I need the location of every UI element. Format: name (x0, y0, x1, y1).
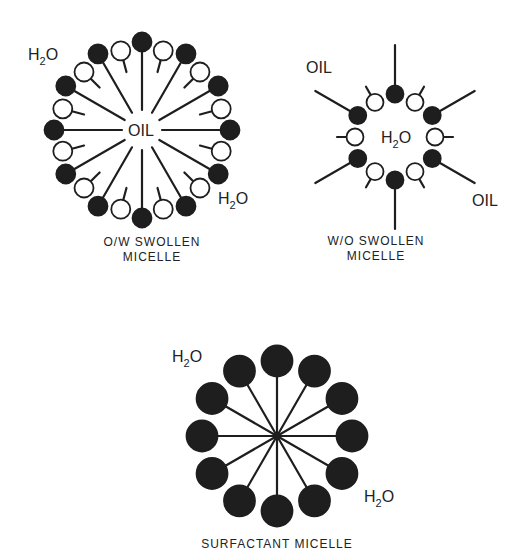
wo-caption-line1: W/O SWOLLEN (327, 234, 424, 248)
filled-head-icon (299, 356, 330, 387)
wo-core-label: H2O (381, 129, 411, 150)
sf-water-label-top: H2O (172, 348, 202, 369)
filled-head-icon (89, 44, 108, 63)
filled-head-icon (299, 485, 330, 516)
open-head-icon (347, 129, 364, 146)
filled-head-icon (45, 121, 64, 140)
sf-caption: SURFACTANT MICELLE (201, 537, 353, 551)
open-head-icon (154, 41, 173, 60)
filled-head-icon (197, 458, 228, 489)
filled-head-icon (209, 77, 228, 96)
filled-head-icon (221, 121, 240, 140)
open-head-icon (212, 142, 231, 161)
filled-head-icon (89, 197, 108, 216)
filled-head-icon (424, 107, 441, 124)
open-head-icon (212, 99, 231, 118)
open-head-icon (154, 200, 173, 219)
filled-head-icon (56, 77, 75, 96)
wo-oil-label-bottom: OIL (472, 192, 498, 209)
filled-head-icon (133, 209, 152, 228)
open-head-icon (367, 94, 384, 111)
open-head-icon (407, 94, 424, 111)
filled-head-icon (387, 86, 404, 103)
open-head-icon (190, 178, 209, 197)
filled-head-icon (197, 383, 228, 414)
ow-water-label-top: H2O (28, 46, 58, 67)
filled-head-icon (262, 496, 293, 527)
open-head-icon (367, 163, 384, 180)
sf-water-label-bottom: H2O (364, 488, 394, 509)
ow-water-label-bottom: H2O (218, 190, 248, 211)
filled-head-icon (177, 44, 196, 63)
center-node-icon (274, 433, 281, 440)
filled-head-icon (424, 150, 441, 167)
filled-head-icon (337, 421, 368, 452)
filled-head-icon (177, 197, 196, 216)
ow-caption-line2: MICELLE (123, 250, 181, 264)
open-head-icon (111, 41, 130, 60)
filled-head-icon (56, 165, 75, 184)
wo-swollen-micelle (315, 45, 474, 229)
filled-head-icon (209, 165, 228, 184)
wo-oil-label-top: OIL (306, 59, 332, 76)
open-head-icon (190, 63, 209, 82)
open-head-icon (53, 99, 72, 118)
ow-caption-line1: O/W SWOLLEN (103, 235, 200, 249)
filled-head-icon (133, 33, 152, 52)
filled-head-icon (224, 485, 255, 516)
filled-head-icon (262, 346, 293, 377)
open-head-icon (111, 200, 130, 219)
filled-head-icon (224, 356, 255, 387)
open-head-icon (75, 63, 94, 82)
filled-head-icon (349, 150, 366, 167)
surfactant-micelle (187, 346, 368, 527)
filled-head-icon (326, 458, 357, 489)
micelle-diagram: OIL H2O H2O O/W SWOLLEN MICELLE H2O OIL … (0, 0, 518, 553)
open-head-icon (407, 163, 424, 180)
wo-caption-line2: MICELLE (347, 249, 405, 263)
open-head-icon (75, 178, 94, 197)
filled-head-icon (326, 383, 357, 414)
open-head-icon (53, 142, 72, 161)
open-head-icon (427, 129, 444, 146)
filled-head-icon (387, 172, 404, 189)
ow-core-label: OIL (128, 122, 154, 139)
filled-head-icon (187, 421, 218, 452)
filled-head-icon (349, 107, 366, 124)
